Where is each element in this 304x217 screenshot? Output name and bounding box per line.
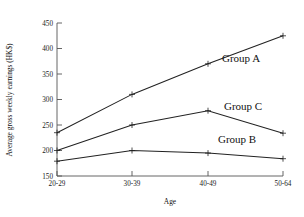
series-group-b: Group B: [54, 133, 286, 164]
line-chart: 450 400 350 300 250 200 150 20-29 30-39 …: [0, 0, 304, 217]
x-tick-label-30-39: 30-39: [124, 180, 141, 188]
series-group-a: Group A: [54, 33, 286, 136]
series-markers-group-a: [54, 33, 286, 136]
y-tick-label-200: 200: [42, 147, 53, 155]
y-tick-label-250: 250: [42, 122, 53, 130]
x-tick-label-50-64: 50-64: [275, 180, 292, 188]
series-markers-group-c: [54, 108, 286, 154]
x-axis: 20-29 30-39 40-49 50-64 Age: [49, 171, 292, 206]
y-tick-label-300: 300: [42, 96, 53, 104]
series-group-c: Group C: [54, 100, 286, 154]
series-line-group-b: [57, 151, 283, 162]
y-tick-label-450: 450: [42, 20, 53, 28]
y-tick-label-350: 350: [42, 71, 53, 79]
y-axis: 450 400 350 300 250 200 150: [42, 20, 62, 181]
series-label-group-c: Group C: [224, 100, 262, 112]
x-axis-title: Age: [164, 197, 177, 206]
chart-container: 450 400 350 300 250 200 150 20-29 30-39 …: [0, 0, 304, 217]
series-label-group-a: Group A: [222, 52, 260, 64]
x-tick-label-20-29: 20-29: [49, 180, 66, 188]
series-label-group-b: Group B: [218, 133, 256, 145]
y-axis-title: Average gross weekly earnings (HK$): [5, 43, 14, 157]
x-tick-label-40-49: 40-49: [200, 180, 217, 188]
y-tick-label-400: 400: [42, 45, 53, 53]
